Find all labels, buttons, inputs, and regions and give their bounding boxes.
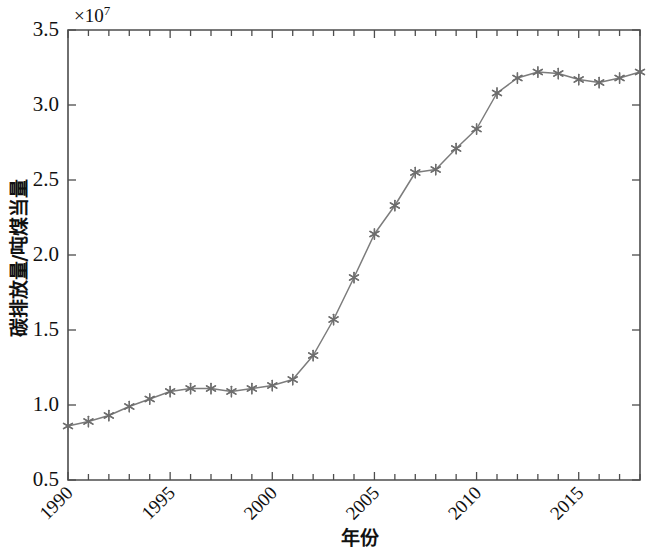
y-tick-label: 2.0 (33, 242, 59, 266)
y-axis-title: 碳排放量/吨煤当量 (8, 179, 30, 338)
y-tick-label: 0.5 (33, 467, 59, 491)
y-tick-label: 3.0 (33, 92, 59, 116)
x-axis-title-text: 年份 (341, 527, 380, 549)
y-tick-label: 1.0 (33, 392, 59, 416)
chart-background (0, 0, 652, 552)
y-tick-label: 2.5 (33, 167, 59, 191)
carbon-emission-line-chart: 0.51.01.52.02.53.03.5 199019952000200520… (0, 0, 652, 552)
chart-figure: 0.51.01.52.02.53.03.5 199019952000200520… (0, 0, 652, 552)
y-tick-label: 3.5 (33, 17, 59, 41)
y-tick-label: 1.5 (33, 317, 59, 341)
y-axis-title-text: 碳排放量/吨煤当量 (8, 179, 30, 338)
